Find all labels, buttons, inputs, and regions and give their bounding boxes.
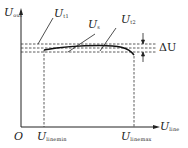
us-label: Us: [88, 19, 100, 30]
ut2-label: Ut2: [121, 14, 136, 25]
leader-ut2: [100, 28, 116, 51]
x-axis: [21, 125, 160, 129]
x-axis-arrow-icon: [153, 125, 160, 129]
delta-u-marker: [142, 33, 145, 62]
leader-lines: [38, 18, 116, 52]
x-axis-label: Uline: [160, 121, 179, 132]
x-tick-linemin: Ulinemin: [37, 131, 67, 142]
x-tick-linemax: Ulinemax: [121, 131, 152, 142]
delta-up-arrow-icon: [142, 52, 145, 56]
output-curve: [44, 46, 134, 56]
delta-down-arrow-icon: [142, 40, 145, 44]
leader-ut1: [38, 18, 53, 44]
delta-u-label: ΔU: [159, 42, 176, 53]
leader-us: [68, 34, 95, 52]
origin-label: O: [14, 131, 23, 142]
y-axis-label: Uout: [4, 7, 22, 18]
line-regulation-diagram: Uout Ut1 Us Ut2 ΔU O Ulinemin Ulinemax U…: [0, 0, 188, 148]
ut1-label: Ut1: [54, 8, 69, 19]
y-axis: [19, 8, 23, 127]
limit-lines: [44, 50, 134, 127]
